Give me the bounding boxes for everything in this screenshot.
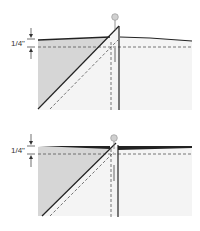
fabric-fold-illustration-2: 1/4"	[0, 115, 200, 231]
pin-head-icon	[111, 135, 118, 142]
diagram-step-2: 1/4"	[0, 115, 200, 231]
measurement-label: 1/4"	[11, 39, 25, 48]
fabric-fold-illustration-1: 1/4"	[0, 0, 200, 115]
diagram-step-1: 1/4"	[0, 0, 200, 115]
pin-head-icon	[112, 14, 119, 21]
measurement-label: 1/4"	[11, 146, 25, 155]
